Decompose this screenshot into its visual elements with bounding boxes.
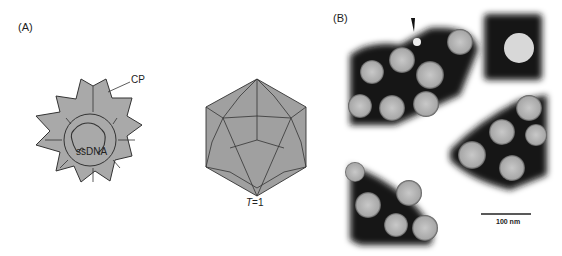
scale-bar-label: 100 nm: [496, 218, 520, 225]
electron-micrograph: [0, 0, 562, 256]
arrowhead-marker: [411, 18, 415, 32]
